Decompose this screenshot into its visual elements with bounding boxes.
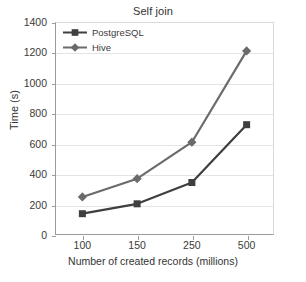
legend-item-hive[interactable]: Hive	[62, 41, 144, 53]
series-line-hive	[82, 51, 246, 197]
x-tick-label: 100	[74, 239, 92, 251]
data-point-marker-square	[79, 210, 86, 217]
x-tick-label: 150	[128, 239, 146, 251]
data-point-marker-square	[134, 200, 141, 207]
data-point-marker-square	[72, 29, 79, 36]
legend-item-postgresql[interactable]: PostgreSQL	[62, 26, 144, 38]
x-tick-label: 500	[238, 239, 256, 251]
series-line-postgresql	[82, 125, 246, 214]
data-point-marker-diamond	[78, 192, 87, 201]
chart-legend: PostgreSQLHive	[62, 26, 144, 53]
legend-label: Hive	[92, 42, 111, 53]
data-point-marker-diamond	[71, 43, 80, 52]
x-axis-title: Number of created records (millions)	[0, 255, 306, 267]
series-plot	[55, 22, 274, 235]
self-join-line-chart: Self join 0200400600800100012001400 1001…	[0, 0, 306, 282]
y-tick-label: 0	[0, 229, 47, 241]
legend-swatch-postgresql	[62, 27, 88, 38]
data-point-marker-diamond	[242, 46, 251, 55]
legend-label: PostgreSQL	[92, 27, 144, 38]
y-tick-mark	[52, 236, 56, 237]
data-point-marker-square	[188, 179, 195, 186]
y-axis-title: Time (s)	[8, 50, 20, 170]
y-tick-label: 1400	[0, 16, 47, 28]
x-tick-label: 250	[183, 239, 201, 251]
data-point-marker-square	[243, 121, 250, 128]
legend-swatch-hive	[62, 42, 88, 53]
y-tick-label: 200	[0, 199, 47, 211]
